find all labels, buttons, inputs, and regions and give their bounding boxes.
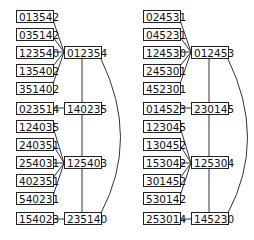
permutation-graph-diagram: 013542 035142 123540 135402 351402 01235… (0, 0, 254, 240)
node-left-bottom-leaf-2: 240351 (16, 138, 54, 151)
node-right-top-leaf-3: 124530 (143, 46, 181, 59)
node-left-hub-mid: 140235 (64, 102, 102, 115)
node-left-mid-leaf: 023514 (16, 102, 54, 115)
node-left-bottom-leaf-5: 540231 (16, 192, 54, 205)
node-left-hub-top: 012354 (64, 46, 102, 59)
node-left-top-leaf-3: 123540 (16, 46, 54, 59)
node-right-top-leaf-1: 024531 (143, 10, 181, 23)
node-right-bottom-leaf-2: 130452 (143, 138, 181, 151)
node-left-top-leaf-2: 035142 (16, 28, 54, 41)
node-right-bottom-leaf-4: 301452 (143, 174, 181, 187)
node-right-hub-top: 012453 (191, 46, 229, 59)
node-right-bottom-leaf-5: 530142 (143, 192, 181, 205)
node-left-bottom-leaf-3: 254031 (16, 156, 54, 169)
node-right-bottom-leaf-3: 153042 (143, 156, 181, 169)
node-right-top-leaf-5: 452301 (143, 82, 181, 95)
node-right-bottom-leaf-1: 123045 (143, 120, 181, 133)
node-left-top-leaf-5: 351402 (16, 82, 54, 95)
node-left-hub-bottom: 125403 (64, 156, 102, 169)
node-right-top-leaf-2: 045231 (143, 28, 181, 41)
node-right-top-leaf-4: 245301 (143, 64, 181, 77)
node-left-last-leaf: 154023 (16, 212, 54, 225)
node-left-hub-last: 235140 (64, 212, 102, 225)
node-left-bottom-leaf-1: 124035 (16, 120, 54, 133)
node-left-top-leaf-4: 135402 (16, 64, 54, 77)
node-right-mid-leaf: 014523 (143, 102, 181, 115)
node-left-top-leaf-1: 013542 (16, 10, 54, 23)
node-right-last-leaf: 253014 (143, 212, 181, 225)
node-left-bottom-leaf-4: 402351 (16, 174, 54, 187)
node-right-hub-bottom: 125304 (191, 156, 229, 169)
node-right-hub-mid: 230145 (191, 102, 229, 115)
node-right-hub-last: 145230 (191, 212, 229, 225)
